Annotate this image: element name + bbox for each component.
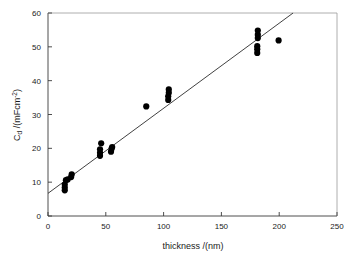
x-tick-label: 50 <box>101 222 110 231</box>
data-point-marker <box>166 86 172 92</box>
y-tick-label: 60 <box>32 9 41 18</box>
y-tick-label: 50 <box>32 43 41 52</box>
x-tick-label: 250 <box>330 222 344 231</box>
x-tick-label: 100 <box>157 222 171 231</box>
y-tick-label: 0 <box>37 212 42 221</box>
data-point-marker <box>255 27 261 33</box>
scatter-plot-svg: 050100150200250 0102030405060 thickness … <box>0 0 359 268</box>
x-tick-label: 200 <box>273 222 287 231</box>
data-point-marker <box>69 171 75 177</box>
y-axis-title-rest: /(mFcm <box>12 98 22 131</box>
y-axis-title-close: ) <box>12 89 22 92</box>
data-point-marker <box>276 37 282 43</box>
y-tick-label: 40 <box>32 77 41 86</box>
x-tick-label: 0 <box>46 222 51 231</box>
data-point-marker <box>97 146 103 152</box>
x-axis-title: thickness /(nm) <box>162 241 223 251</box>
y-tick-label: 30 <box>32 111 41 120</box>
y-tick-label: 10 <box>32 178 41 187</box>
chart-figure: 050100150200250 0102030405060 thickness … <box>0 0 359 268</box>
chart-background <box>0 0 359 268</box>
x-tick-label: 150 <box>215 222 229 231</box>
y-tick-label: 20 <box>32 144 41 153</box>
data-point-marker <box>109 144 115 150</box>
data-point-marker <box>98 140 104 146</box>
data-point-marker <box>143 103 149 109</box>
data-point-marker <box>254 43 260 49</box>
